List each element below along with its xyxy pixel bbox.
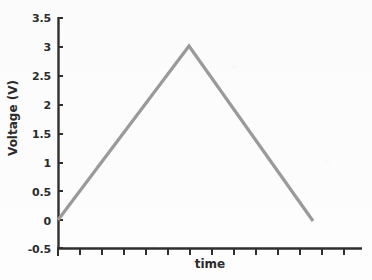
chart-figure: 3.5 3 2.5 2 1.5 1 0.5 0 -0.5 <box>0 0 372 280</box>
y-axis-title: Voltage (V) <box>7 78 19 158</box>
x-axis-ticks <box>58 249 344 256</box>
x-axis-title: time <box>58 258 362 270</box>
plot-area <box>0 0 372 280</box>
series-line-triangle-wave <box>58 46 313 221</box>
